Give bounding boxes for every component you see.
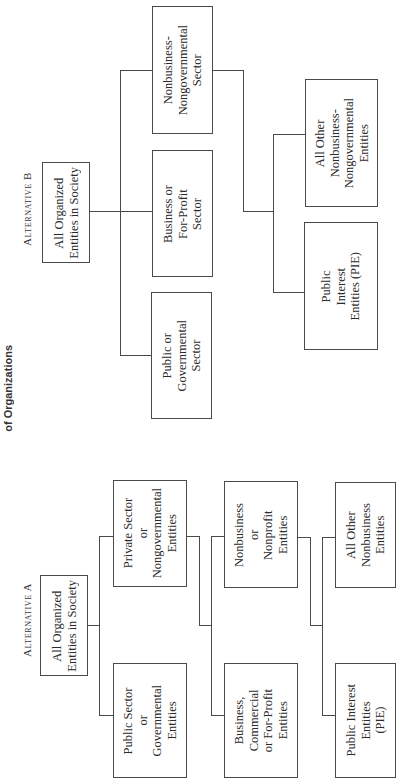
alternative-a-label: Alternative A bbox=[21, 583, 33, 657]
alternative-b-label: Alternative B bbox=[21, 172, 33, 246]
alt-a-all-other-box: All Other Nonbusiness Entities bbox=[335, 482, 396, 588]
connector bbox=[322, 537, 335, 538]
connector bbox=[87, 625, 99, 626]
connector bbox=[211, 536, 224, 537]
connector bbox=[322, 715, 335, 716]
connector bbox=[243, 70, 244, 212]
alt-a-private-sector-box: Private Sector or Nongovernmental Entiti… bbox=[113, 480, 187, 587]
alternative-a-label-text: Alternative A bbox=[21, 583, 33, 657]
connector bbox=[99, 536, 113, 537]
connector bbox=[120, 70, 121, 356]
connector bbox=[243, 211, 273, 212]
connector bbox=[297, 537, 310, 538]
connector bbox=[199, 625, 211, 626]
connector bbox=[211, 536, 212, 716]
alt-a-pie-text: Public Interest Entities (PIE) bbox=[344, 684, 388, 757]
connector bbox=[99, 715, 113, 716]
alt-a-root-box: All Organized Entities in Society bbox=[40, 575, 88, 676]
alternative-b-label-text: Alternative B bbox=[21, 172, 33, 246]
alt-a-nonprofit-text: Nonbusiness or Nonprofit Entities bbox=[232, 503, 290, 567]
alt-b-public-sector-text: Public or Governmental Sector bbox=[160, 320, 204, 392]
alt-a-pie-box: Public Interest Entities (PIE) bbox=[335, 663, 396, 778]
caption-text: of Organizations bbox=[2, 345, 14, 432]
connector bbox=[273, 292, 304, 293]
alt-b-root-box: All Organized Entities in Society bbox=[42, 162, 90, 263]
connector bbox=[273, 134, 305, 135]
alt-b-business-sector-box: Business or For-Profit Sector bbox=[152, 150, 213, 277]
alt-b-pie-text: Public Interest Entities (PIE) bbox=[319, 252, 363, 320]
connector bbox=[186, 536, 199, 537]
alt-a-root-text: All Organized Entities in Society bbox=[50, 580, 79, 672]
connector bbox=[322, 537, 323, 716]
connector bbox=[310, 625, 322, 626]
alt-a-business-box: Business, Commercial or For-Profit Entit… bbox=[224, 663, 298, 778]
alt-a-nonprofit-box: Nonbusiness or Nonprofit Entities bbox=[224, 481, 298, 588]
connector bbox=[212, 70, 243, 71]
connector bbox=[99, 536, 100, 716]
alt-b-public-sector-box: Public or Governmental Sector bbox=[151, 292, 212, 419]
alt-b-pie-box: Public Interest Entities (PIE) bbox=[304, 222, 378, 350]
alt-b-nonbusiness-sector-text: Nonbusiness- Nongovernmental Sector bbox=[161, 25, 205, 115]
connector bbox=[120, 70, 152, 71]
connector bbox=[199, 536, 200, 626]
connector bbox=[120, 355, 152, 356]
alt-b-root-text: All Organized Entities in Society bbox=[52, 167, 81, 259]
connector bbox=[310, 537, 311, 626]
alt-a-all-other-text: All Other Nonbusiness Entities bbox=[344, 503, 388, 567]
alt-a-public-sector-box: Public Sector or Governmental Entities bbox=[113, 663, 187, 778]
alt-b-business-sector-text: Business or For-Profit Sector bbox=[161, 185, 205, 243]
alt-a-public-sector-text: Public Sector or Governmental Entities bbox=[121, 685, 179, 757]
connector bbox=[273, 134, 274, 292]
connector bbox=[211, 715, 224, 716]
alt-a-business-text: Business, Commercial or For-Profit Entit… bbox=[232, 689, 290, 752]
alt-b-all-other-box: All Other Nonbusiness- Nongovernmental E… bbox=[305, 79, 378, 207]
figure-caption: of Organizations bbox=[2, 345, 14, 432]
alt-b-all-other-text: All Other Nonbusiness- Nongovernmental E… bbox=[313, 98, 371, 188]
alt-a-private-sector-text: Private Sector or Nongovernmental Entiti… bbox=[121, 488, 179, 578]
alt-b-nonbusiness-sector-box: Nonbusiness- Nongovernmental Sector bbox=[152, 6, 213, 134]
